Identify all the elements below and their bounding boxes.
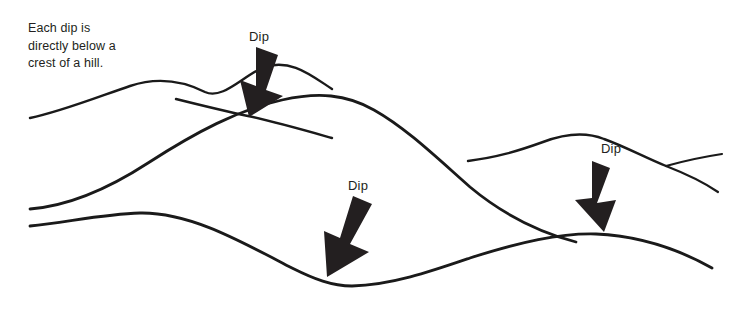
dip-arrow-3 — [575, 161, 616, 232]
dip-label-right: Dip — [601, 141, 621, 156]
dip-arrow-1 — [240, 47, 283, 117]
lower-surface-line — [30, 213, 712, 286]
right-hill-line — [468, 134, 666, 166]
dip-arrow-2 — [324, 196, 372, 277]
right-hill-upper-tail-line — [666, 154, 722, 166]
dip-arrow-2-shape — [324, 196, 372, 277]
right-hill-lower-tail-line — [666, 166, 718, 192]
main-hill-line — [30, 95, 576, 242]
upper-surface-line — [30, 65, 332, 118]
dip-label-middle: Dip — [348, 178, 368, 193]
dip-label-top: Dip — [249, 29, 269, 44]
geology-dip-diagram: Each dip is directly below a crest of a … — [0, 0, 733, 313]
dip-arrow-1-shape — [240, 47, 283, 117]
caption-text: Each dip is directly below a crest of a … — [28, 20, 116, 73]
dip-arrow-3-shape — [575, 161, 616, 232]
